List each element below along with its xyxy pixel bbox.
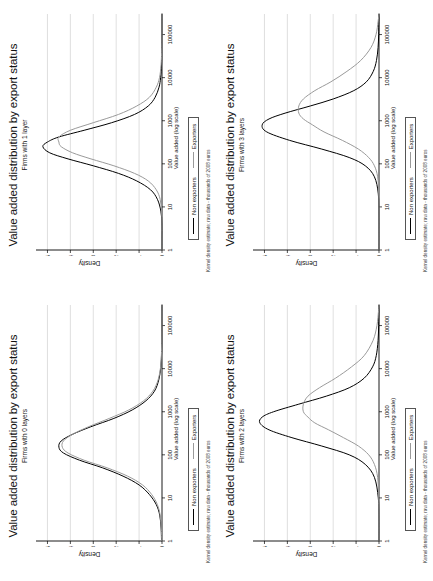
legend-line-nonexporters-icon (193, 218, 194, 234)
plot-area: 0.1.2.3.4.5110100100010000100000 (249, 311, 375, 547)
y-tick-label: .5 (262, 254, 268, 256)
legend-line-nonexporters-icon (410, 509, 411, 525)
legend-label-exporters: Exporters (191, 415, 197, 441)
chart-panel-bottom-right: Value added distribution by export statu… (217, 291, 433, 581)
density-curve-non-exporters (59, 305, 162, 541)
density-curve-non-exporters (262, 14, 379, 250)
y-tick-label: 0 (376, 254, 382, 256)
legend-item-nonexporters: Non exporters (191, 177, 197, 234)
y-tick-label: 0 (159, 254, 165, 256)
legend-line-nonexporters-icon (193, 509, 194, 525)
y-tick-label: .5 (45, 254, 51, 256)
density-curve-exporters (62, 305, 162, 541)
plot-area: 0.1.2.3.4.5110100100010000100000 (32, 20, 158, 256)
rotation-wrapper: Value added distribution by export statu… (0, 291, 216, 581)
rotation-wrapper: Value added distribution by export statu… (0, 0, 216, 290)
footnote: Kernel density estimate; raw data - thou… (423, 149, 428, 272)
y-tick-label: .5 (262, 545, 268, 547)
panel-title: Value added distribution by export statu… (7, 291, 19, 581)
legend-label-nonexporters: Non exporters (191, 468, 197, 506)
panel-title: Value added distribution by export statu… (224, 0, 236, 290)
legend-item-exporters: Exporters (191, 415, 197, 460)
plot-svg: 0.1.2.3.4.5110100100010000100000 (32, 0, 180, 256)
y-tick-label: .1 (136, 545, 142, 547)
y-axis-label: Density (244, 551, 370, 558)
plot-area: 0.1.2.3.4.5110100100010000100000 (249, 20, 375, 256)
panel-title: Value added distribution by export statu… (7, 0, 19, 290)
legend-item-exporters: Exporters (408, 415, 414, 460)
y-tick-label: .1 (353, 545, 359, 547)
y-tick-label: .3 (90, 254, 96, 256)
y-tick-label: .1 (136, 254, 142, 256)
legend-label-nonexporters: Non exporters (408, 468, 414, 506)
density-curve-non-exporters (43, 14, 162, 250)
legend: Non exporters Exporters (188, 117, 199, 240)
legend: Non exporters Exporters (188, 408, 199, 531)
figure-canvas: Value added distribution by export statu… (0, 0, 433, 581)
plot-svg: 0.1.2.3.4.5110100100010000100000 (32, 291, 180, 547)
chart-panel-top-left: Value added distribution by export statu… (0, 0, 216, 290)
y-tick-label: .5 (45, 545, 51, 547)
legend-line-exporters-icon (193, 152, 194, 168)
y-tick-label: .3 (307, 545, 313, 547)
y-axis-label: Density (27, 551, 153, 558)
y-tick-label: .2 (330, 545, 336, 547)
y-tick-label: .3 (307, 254, 313, 256)
x-axis-label: Value added (log scale) (173, 20, 179, 256)
legend-label-exporters: Exporters (191, 124, 197, 150)
legend-line-exporters-icon (193, 443, 194, 459)
y-tick-label: .2 (113, 254, 119, 256)
chart-panel-top-right: Value added distribution by export statu… (217, 0, 433, 290)
x-axis-label: Value added (log scale) (173, 311, 179, 547)
legend-line-exporters-icon (410, 443, 411, 459)
y-tick-label: .4 (285, 254, 291, 256)
density-curve-exporters (58, 14, 162, 250)
legend-line-exporters-icon (410, 152, 411, 168)
panel-subtitle: Firms with 2 layers (238, 291, 245, 581)
y-axis-label: Density (244, 260, 370, 267)
y-tick-label: .4 (68, 545, 74, 547)
panel-subtitle: Firms with 3 layers (238, 0, 245, 290)
x-axis-label: Value added (log scale) (390, 311, 396, 547)
panel-subtitle: Firms with 1 layer (21, 0, 28, 290)
y-tick-label: .3 (90, 545, 96, 547)
legend-label-nonexporters: Non exporters (408, 177, 414, 215)
legend-item-nonexporters: Non exporters (191, 468, 197, 525)
legend: Non exporters Exporters (405, 117, 416, 240)
footnote: Kernel density estimate; raw data - thou… (423, 440, 428, 563)
y-tick-label: .2 (330, 254, 336, 256)
y-tick-label: .4 (285, 545, 291, 547)
legend-label-exporters: Exporters (408, 415, 414, 441)
rotation-wrapper: Value added distribution by export statu… (217, 291, 433, 581)
chart-panel-bottom-left: Value added distribution by export statu… (0, 291, 216, 581)
plot-svg: 0.1.2.3.4.5110100100010000100000 (249, 0, 397, 256)
panel-title: Value added distribution by export statu… (224, 291, 236, 581)
y-tick-label: .1 (353, 254, 359, 256)
panel-subtitle: Firms with 0 layers (21, 291, 28, 581)
footnote: Kernel density estimate; raw data - thou… (206, 149, 211, 272)
plot-card: Value added distribution by export statu… (0, 0, 216, 290)
y-tick-label: .4 (68, 254, 74, 256)
plot-card: Value added distribution by export statu… (0, 291, 216, 581)
plot-card: Value added distribution by export statu… (217, 0, 433, 290)
rotation-wrapper: Value added distribution by export statu… (217, 0, 433, 290)
plot-card: Value added distribution by export statu… (217, 291, 433, 581)
density-curve-exporters (303, 305, 379, 541)
x-axis-label: Value added (log scale) (390, 20, 396, 256)
legend-item-exporters: Exporters (191, 124, 197, 169)
legend-label-nonexporters: Non exporters (191, 177, 197, 215)
y-tick-label: 0 (159, 545, 165, 547)
legend-item-exporters: Exporters (408, 124, 414, 169)
legend-label-exporters: Exporters (408, 124, 414, 150)
plot-area: 0.1.2.3.4.5110100100010000100000 (32, 311, 158, 547)
density-curve-non-exporters (259, 305, 379, 541)
y-axis-label: Density (27, 260, 153, 267)
legend: Non exporters Exporters (405, 408, 416, 531)
legend-line-nonexporters-icon (410, 218, 411, 234)
plot-svg: 0.1.2.3.4.5110100100010000100000 (249, 291, 397, 547)
y-tick-label: .2 (113, 545, 119, 547)
y-tick-label: 0 (376, 545, 382, 547)
legend-item-nonexporters: Non exporters (408, 468, 414, 525)
footnote: Kernel density estimate; raw data - thou… (206, 440, 211, 563)
legend-item-nonexporters: Non exporters (408, 177, 414, 234)
